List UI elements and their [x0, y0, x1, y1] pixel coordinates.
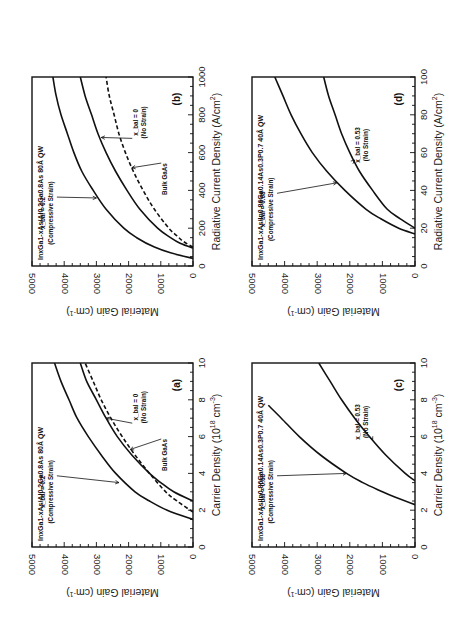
- arrow-icon: [57, 476, 119, 483]
- y-tick-label: 0: [410, 554, 421, 559]
- arrow-icon: [277, 473, 347, 475]
- x-tick-label: 10: [196, 358, 207, 369]
- x-tick-label: 4: [196, 471, 207, 476]
- curve-annotation: x_bal = 0.53: [354, 404, 361, 440]
- curve-annotation: x_bal = 0.68: [259, 191, 266, 227]
- y-tick-label: 3000: [313, 554, 324, 575]
- y-tick-label: 5000: [27, 554, 38, 575]
- y-tick-label: 4000: [60, 554, 71, 575]
- x-tick-label: 0: [196, 263, 207, 268]
- x-tick-label: 6: [418, 434, 429, 439]
- x-tick-label: 20: [418, 223, 429, 234]
- x-tick-label: 400: [196, 182, 207, 198]
- curve-annotation: Bulk GaAs: [161, 163, 168, 195]
- plot-frame: [252, 363, 415, 547]
- y-tick-label: 0: [188, 554, 199, 559]
- panel-title: InxGa1-xAs/In0.86Ga0.14As0.3P0.7 40Å QW: [256, 395, 265, 541]
- y-tick-label: 3000: [92, 554, 103, 575]
- y-tick-label: 3000: [92, 273, 103, 294]
- x-tick-label: 6: [196, 434, 207, 439]
- curve-x-bal-0-68-compressive-strain: [268, 405, 415, 504]
- arrow-icon: [101, 137, 132, 138]
- y-tick-label: 1000: [156, 273, 167, 294]
- y-tick-label: 2000: [124, 554, 135, 575]
- y-tick-label: 5000: [247, 554, 258, 575]
- curve-annotation-sub: (No Strain): [140, 391, 148, 423]
- curve-annotation: x_bal = 0: [132, 393, 139, 420]
- y-tick-label: 0: [188, 273, 199, 278]
- curve-annotation: x_bal = 0.2: [39, 197, 46, 230]
- panel-d: 010002000300040005000Material Gain (cm-1…: [247, 69, 443, 318]
- arrow-icon: [132, 163, 161, 168]
- x-tick-label: 4: [418, 471, 429, 476]
- curve-annotation-sub: (Compressive Strain): [47, 460, 55, 523]
- y-tick-label: 4000: [60, 273, 71, 294]
- x-tick-label: 600: [196, 145, 207, 161]
- x-tick-label: 800: [196, 107, 207, 123]
- y-axis-label: Material Gain (cm-1): [287, 587, 380, 599]
- y-tick-label: 5000: [247, 273, 258, 294]
- y-tick-label: 1000: [378, 554, 389, 575]
- panel-letter: (b): [171, 93, 182, 106]
- y-tick-label: 2000: [124, 273, 135, 294]
- x-axis-label: Radiative Current Density (A/cm2): [209, 93, 221, 250]
- x-tick-label: 2: [196, 508, 207, 513]
- y-tick-label: 0: [410, 273, 421, 278]
- plot-frame: [252, 77, 415, 266]
- x-tick-label: 200: [196, 220, 207, 236]
- panel-letter: (c): [393, 379, 404, 391]
- panel-title: InxGa1-xAs/In0.86Ga0.14As0.3P0.7 40Å QW: [256, 114, 265, 260]
- y-tick-label: 2000: [345, 554, 356, 575]
- y-tick-label: 3000: [313, 273, 324, 294]
- x-axis-label: Radiative Current Density (A/cm2): [431, 93, 443, 250]
- x-axis-label: Carrier Density (1018 cm-3): [209, 394, 221, 517]
- x-tick-label: 1000: [196, 66, 207, 87]
- y-tick-label: 4000: [280, 273, 291, 294]
- y-tick-label: 1000: [378, 273, 389, 294]
- curve-annotation-sub: (No Strain): [362, 406, 370, 438]
- arrow-icon: [106, 418, 132, 423]
- panel-c: 010002000300040005000Material Gain (cm-1…: [247, 358, 443, 599]
- arrow-icon: [130, 439, 161, 449]
- y-axis-label: Material Gain (cm-1): [287, 306, 380, 318]
- x-tick-label: 40: [418, 185, 429, 196]
- x-tick-label: 60: [418, 147, 429, 158]
- x-tick-label: 0: [418, 544, 429, 549]
- curve-annotation-sub: (Compressive Strain): [267, 178, 275, 241]
- curve-annotation-sub: (Compressive Strain): [267, 460, 275, 523]
- plot-frame: [32, 77, 193, 266]
- x-tick-label: 100: [418, 69, 429, 85]
- panel-letter: (d): [393, 93, 404, 106]
- y-tick-label: 5000: [27, 273, 38, 294]
- x-tick-label: 10: [418, 358, 429, 369]
- panel-b: 010002000300040005000Material Gain (cm-1…: [27, 66, 221, 318]
- curve-annotation: x_bal = 0: [132, 108, 139, 135]
- y-tick-label: 4000: [280, 554, 291, 575]
- figure: 010002000300040005000Material Gain (cm-1…: [0, 0, 464, 642]
- plot-frame: [32, 363, 193, 547]
- curve-annotation-sub: (No Strain): [362, 129, 370, 161]
- curve-annotation-sub: (Compressive Strain): [47, 181, 55, 244]
- curve-annotation-sub: (No Strain): [140, 106, 148, 138]
- y-axis-label: Material Gain (cm-1): [66, 587, 159, 599]
- curve-annotation: x_bal = 0.68: [259, 474, 266, 510]
- arrow-icon: [57, 197, 97, 198]
- panel-letter: (a): [171, 379, 182, 391]
- x-tick-label: 8: [196, 397, 207, 402]
- y-tick-label: 2000: [345, 273, 356, 294]
- x-axis-label: Carrier Density (1018 cm-3): [431, 394, 443, 517]
- arrow-icon: [277, 183, 337, 193]
- panel-a: 010002000300040005000Material Gain (cm-1…: [27, 358, 221, 599]
- curve-annotation: Bulk GaAs: [161, 439, 168, 471]
- x-tick-label: 80: [418, 110, 429, 121]
- x-tick-label: 0: [196, 544, 207, 549]
- curve-annotation: x_bal = 0.2: [39, 475, 46, 508]
- x-tick-label: 0: [418, 263, 429, 268]
- y-axis-label: Material Gain (cm-1): [66, 306, 159, 318]
- y-tick-label: 1000: [156, 554, 167, 575]
- x-tick-label: 8: [418, 397, 429, 402]
- curve-annotation: x_bal = 0.53: [354, 127, 361, 163]
- x-tick-label: 2: [418, 508, 429, 513]
